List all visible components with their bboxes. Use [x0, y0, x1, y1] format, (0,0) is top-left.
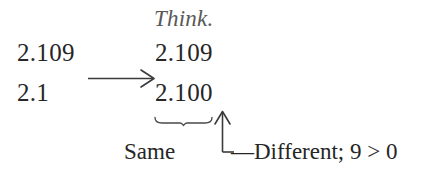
right-arrow-icon — [88, 70, 154, 87]
think-note: Think. — [154, 6, 213, 32]
underbrace-icon — [155, 118, 212, 126]
different-label: —Different; 9 > 0 — [231, 139, 397, 165]
comparison-figure: Think. 2.109 2.1 2.109 2.100 Same —Diffe… — [0, 0, 434, 171]
same-label: Same — [124, 139, 175, 165]
right-value-top: 2.109 — [155, 39, 213, 67]
up-arrow-icon — [215, 112, 230, 153]
right-value-bottom: 2.100 — [155, 79, 213, 107]
left-value-top: 2.109 — [17, 39, 75, 67]
left-value-bottom: 2.1 — [17, 79, 49, 107]
